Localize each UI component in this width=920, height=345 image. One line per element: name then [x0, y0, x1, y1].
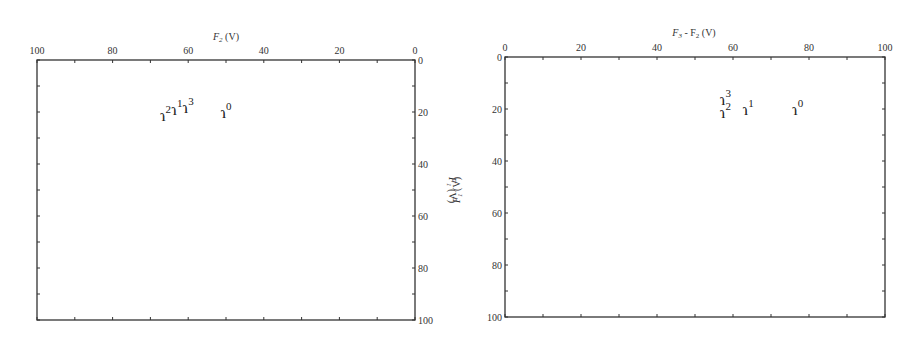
right-x-axis-label: F3 - F2 (V) — [671, 27, 715, 40]
right-data-points: ɿ0ɿ1ɿ2ɿ3 — [720, 87, 804, 122]
y-tick-label: 60 — [492, 208, 502, 219]
vowel-point-label: ɿ0 — [792, 97, 804, 119]
x-tick-label: 40 — [259, 45, 269, 56]
x-tick-label: 20 — [576, 42, 586, 53]
left-data-points: ɿ0ɿ1ɿ2ɿ3 — [160, 95, 232, 125]
vowel-formant-charts: 100806040200020406080100 F2 (V) F1 (V) ɿ… — [0, 0, 920, 345]
left-plot-frame — [37, 60, 415, 320]
y-tick-label: 0 — [497, 52, 502, 63]
y-tick-label: 0 — [418, 55, 423, 66]
left-chart-f2-vs-f1: 100806040200020406080100 F2 (V) F1 (V) ɿ… — [30, 31, 459, 326]
x-tick-label: 60 — [183, 45, 193, 56]
x-tick-label: 100 — [878, 42, 893, 53]
x-tick-label: 20 — [334, 45, 344, 56]
x-tick-label: 80 — [804, 42, 814, 53]
left-x-axis-label: F2 (V) — [212, 31, 239, 44]
vowel-point-label: ɿ1 — [171, 97, 182, 119]
y-tick-label: 20 — [418, 107, 428, 118]
y-tick-label: 80 — [492, 260, 502, 271]
x-tick-label: 100 — [30, 45, 45, 56]
vowel-point-label: ɿ2 — [160, 103, 171, 125]
x-tick-label: 0 — [503, 42, 508, 53]
x-tick-label: 80 — [108, 45, 118, 56]
right-plot-frame — [505, 57, 885, 317]
vowel-point-label: ɿ1 — [743, 97, 754, 119]
right-chart-f3f2-vs-f1: 020406080100020406080100 F3 - F2 (V) F1 … — [451, 27, 893, 323]
right-ticks: 020406080100020406080100 — [487, 42, 893, 323]
x-tick-label: 60 — [728, 42, 738, 53]
y-tick-label: 100 — [487, 312, 502, 323]
left-ticks: 100806040200020406080100 — [30, 45, 434, 326]
y-tick-label: 80 — [418, 263, 428, 274]
y-tick-label: 60 — [418, 211, 428, 222]
y-tick-label: 100 — [418, 315, 433, 326]
y-tick-label: 40 — [492, 156, 502, 167]
right-y-axis-label: F1 (V) — [451, 177, 464, 204]
x-tick-label: 40 — [652, 42, 662, 53]
vowel-point-label: ɿ0 — [220, 100, 232, 122]
vowel-point-label: ɿ3 — [183, 95, 195, 117]
y-tick-label: 40 — [418, 159, 428, 170]
x-tick-label: 0 — [413, 45, 418, 56]
y-tick-label: 20 — [492, 104, 502, 115]
